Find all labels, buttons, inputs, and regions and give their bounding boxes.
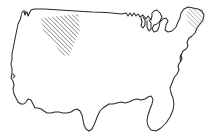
- puget-sound-notch: [24, 12, 26, 15]
- us-outline-map: [0, 0, 213, 140]
- great-lakes-detail: [141, 17, 145, 28]
- us-national-outline: [11, 7, 204, 131]
- map-figure: United States outline map Hand-drawn sty…: [0, 0, 213, 140]
- lake-michigan-detail: [147, 20, 151, 31]
- chesapeake-bay-detail: [180, 55, 181, 61]
